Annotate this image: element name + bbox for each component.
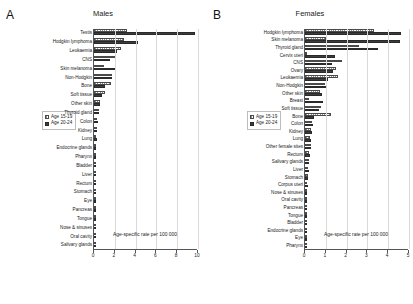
category-label: Thyroid gland	[0, 110, 94, 116]
bar-group	[305, 136, 408, 144]
category-label: Soft tissue	[0, 92, 94, 98]
bar-age-20-24	[305, 185, 308, 188]
gridline	[367, 29, 368, 249]
category-label: Rectum	[0, 181, 94, 187]
bar-age-20-24	[305, 101, 323, 104]
bar-age-20-24	[305, 170, 309, 173]
bar-age-20-24	[305, 154, 310, 157]
bar-group	[94, 117, 197, 126]
bar-age-20-24	[94, 77, 112, 80]
category-label: Pancreas	[207, 205, 305, 211]
bar-age-20-24	[94, 165, 96, 168]
category-label: Eye	[0, 198, 94, 204]
bar-group	[94, 29, 197, 38]
bar-group	[305, 98, 408, 106]
category-label: Other skin	[0, 101, 94, 107]
bar-age-20-24	[94, 41, 138, 44]
bar-age-20-24	[94, 138, 97, 141]
category-label: Kidney	[207, 129, 305, 135]
bar-age-20-24	[94, 227, 96, 230]
bar-age-20-24	[305, 238, 307, 241]
bar-group	[305, 181, 408, 189]
bar-age-20-24	[305, 246, 307, 249]
bar-group	[305, 159, 408, 167]
bar-group	[94, 91, 197, 100]
category-label: Leukaemia	[0, 48, 94, 54]
panel-females: B Females 012345 Age-specific rate per 1…	[207, 0, 413, 304]
axis-tick-label: 6	[148, 253, 162, 258]
bar-age-20-24	[305, 139, 311, 142]
gridline	[177, 29, 178, 249]
bar-group	[94, 153, 197, 162]
plot-area-females	[304, 29, 408, 250]
axis-tick-label: 8	[169, 253, 183, 258]
bar-group	[305, 128, 408, 136]
category-label: Corpus uteri	[207, 182, 305, 188]
category-label: Non-Hodgkin	[0, 75, 94, 81]
bar-group	[305, 82, 408, 90]
category-label: Skin melanoma	[0, 66, 94, 72]
bar-group	[305, 151, 408, 159]
bar-group	[305, 75, 408, 83]
category-label: Colon	[207, 121, 305, 127]
bar-age-20-24	[94, 200, 96, 203]
category-label: Bone	[207, 114, 305, 120]
bar-age-20-24	[94, 174, 96, 177]
bar-group	[94, 206, 197, 215]
bar-age-20-24	[94, 32, 195, 35]
figure-container: A Males 0246810 Age-specific rate per 10…	[0, 0, 413, 304]
x-axis-title-males: Age-specific rate per 100 000	[93, 232, 197, 237]
bar-age-20-24	[305, 177, 308, 180]
category-label: Breast	[207, 98, 305, 104]
category-label: Soft tissue	[207, 106, 305, 112]
bar-age-20-24	[305, 162, 309, 165]
category-label: Liver	[0, 172, 94, 178]
bar-group	[94, 188, 197, 197]
bar-age-20-24	[94, 183, 96, 186]
bar-group	[305, 90, 408, 98]
category-label: Liver	[207, 167, 305, 173]
bar-group	[94, 241, 197, 250]
bar-age-20-24	[305, 215, 307, 218]
bar-age-20-24	[305, 131, 312, 134]
category-label: Other female sites	[207, 144, 305, 150]
bar-group	[305, 174, 408, 182]
bar-age-20-24	[305, 147, 311, 150]
bar-age-20-24	[94, 59, 110, 62]
category-label: Stomach	[207, 175, 305, 181]
panel-title-males: Males	[0, 9, 206, 18]
bar-age-20-24	[305, 93, 322, 96]
category-label: Kidney	[0, 128, 94, 134]
bar-group	[94, 100, 197, 109]
bar-group	[94, 126, 197, 135]
category-label: Pharynx	[0, 154, 94, 160]
bar-group	[305, 37, 408, 45]
bar-rows-females	[305, 29, 408, 249]
bar-group	[305, 120, 408, 128]
bar-age-20-24	[305, 70, 333, 73]
bar-age-20-24	[94, 103, 100, 106]
category-label: Salivary glands	[207, 159, 305, 165]
gridline	[347, 29, 348, 249]
bar-group	[94, 82, 197, 91]
category-label: CNS	[207, 60, 305, 66]
bar-age-20-24	[305, 223, 307, 226]
bar-age-20-24	[94, 121, 98, 124]
bar-group	[305, 105, 408, 113]
category-label: Tongue	[0, 216, 94, 222]
gridline	[156, 29, 157, 249]
bar-age-20-24	[94, 94, 102, 97]
bar-age-20-24	[305, 124, 313, 127]
category-label: CNS	[0, 57, 94, 63]
bar-age-20-24	[305, 200, 307, 203]
bar-age-20-24	[305, 32, 401, 35]
category-label: Other skin	[207, 91, 305, 97]
category-label: Lung	[0, 136, 94, 142]
bar-age-20-24	[94, 85, 105, 88]
axis-tick-label: 0	[297, 253, 311, 258]
category-label: Pharynx	[207, 243, 305, 249]
category-label: Bladder	[0, 163, 94, 169]
category-label: Salivary glands	[0, 242, 94, 248]
category-label: Bladder	[207, 220, 305, 226]
bar-group	[94, 38, 197, 47]
